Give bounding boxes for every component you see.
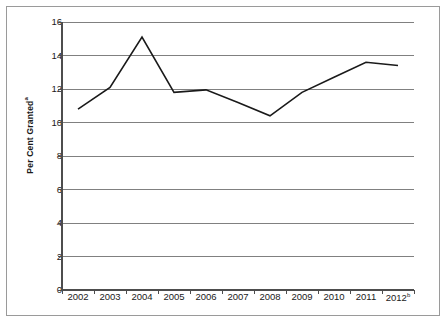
tick-marks-group bbox=[58, 22, 414, 294]
x-tick-label-text: 2006 bbox=[195, 291, 216, 302]
x-tick-label-text: 2002 bbox=[67, 291, 88, 302]
x-tick-label-text: 2012 bbox=[386, 292, 407, 303]
x-tick-label: 2012b bbox=[376, 292, 420, 303]
data-line bbox=[78, 37, 398, 116]
x-tick-label-text: 2003 bbox=[99, 291, 120, 302]
chart-figure: Per Cent Granteda 0246810121416 20022003… bbox=[0, 0, 447, 323]
x-axis-tick-labels: 2002200320042005200620072008200920102011… bbox=[0, 292, 447, 312]
x-tick-label-text: 2005 bbox=[163, 291, 184, 302]
x-tick-label-text: 2010 bbox=[323, 291, 344, 302]
x-tick-label-text: 2009 bbox=[291, 291, 312, 302]
chart-plot-region: Per Cent Granteda 0246810121416 20022003… bbox=[0, 0, 447, 323]
x-tick-label-text: 2004 bbox=[131, 291, 152, 302]
x-tick-label-text: 2007 bbox=[227, 291, 248, 302]
x-tick-label-text: 2011 bbox=[356, 291, 376, 302]
line-chart-svg bbox=[0, 0, 447, 323]
gridlines-group bbox=[62, 22, 414, 257]
data-series-group bbox=[78, 37, 398, 116]
x-tick-label-text: 2008 bbox=[259, 291, 280, 302]
x-tick-label-superscript: b bbox=[407, 292, 410, 298]
